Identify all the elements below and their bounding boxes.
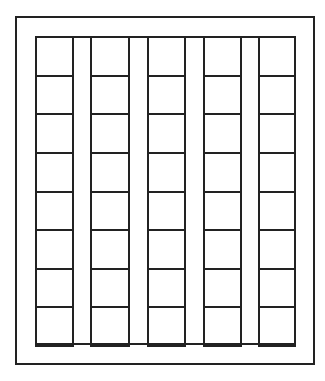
grid-cell — [37, 113, 72, 152]
grid-cell — [92, 268, 128, 307]
grid-cell — [205, 306, 240, 345]
grid-cell — [205, 191, 240, 230]
grid-diagram — [0, 0, 325, 381]
grid-cell — [92, 306, 128, 345]
grid-cell — [37, 75, 72, 114]
grid-column-1 — [35, 36, 74, 347]
grid-cell — [260, 38, 294, 75]
grid-cell — [149, 229, 184, 268]
grid-cell — [149, 268, 184, 307]
grid-cell — [205, 75, 240, 114]
grid-cell — [37, 229, 72, 268]
grid-column-4 — [203, 36, 242, 347]
grid-cell — [92, 75, 128, 114]
grid-cell — [260, 75, 294, 114]
grid-cell — [260, 306, 294, 345]
grid-cell — [149, 113, 184, 152]
grid-cell — [149, 152, 184, 191]
grid-cell — [149, 191, 184, 230]
grid-cell — [92, 113, 128, 152]
grid-cell — [37, 268, 72, 307]
grid-column-2 — [90, 36, 130, 347]
grid-cell — [260, 268, 294, 307]
grid-cell — [149, 75, 184, 114]
grid-cell — [37, 191, 72, 230]
grid-cell — [260, 191, 294, 230]
grid-cell — [149, 306, 184, 345]
grid-cell — [205, 229, 240, 268]
grid-cell — [205, 152, 240, 191]
grid-cell — [37, 152, 72, 191]
grid-cell — [205, 268, 240, 307]
grid-cell — [92, 229, 128, 268]
grid-cell — [149, 38, 184, 75]
grid-cell — [260, 152, 294, 191]
grid-cell — [92, 38, 128, 75]
grid-cell — [92, 191, 128, 230]
grid-column-5 — [258, 36, 296, 347]
grid-cell — [205, 113, 240, 152]
grid-cell — [260, 229, 294, 268]
grid-cell — [260, 113, 294, 152]
grid-cell — [205, 38, 240, 75]
grid-cell — [37, 38, 72, 75]
grid-column-3 — [147, 36, 186, 347]
grid-cell — [37, 306, 72, 345]
grid-cell — [92, 152, 128, 191]
